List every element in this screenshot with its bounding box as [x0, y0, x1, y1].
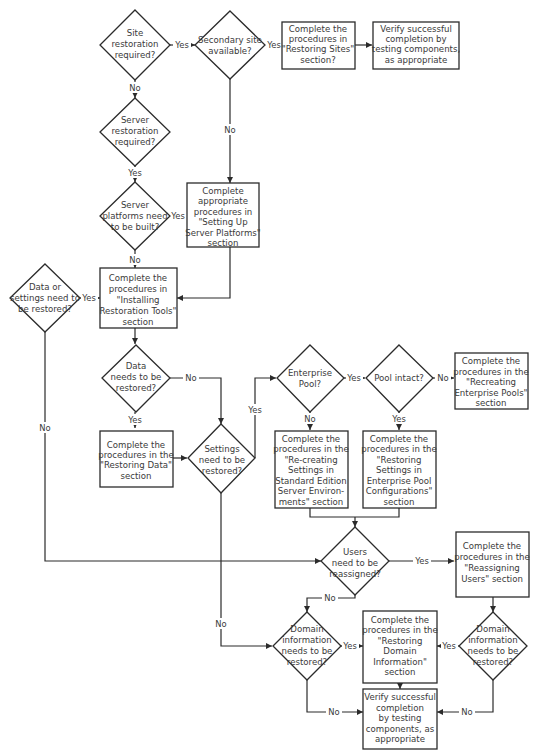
decision-domain-right: Domaininformationneeds to berestored?: [459, 612, 527, 680]
svg-text:No: No: [304, 414, 315, 424]
decision-pool-intact: Pool intact?: [366, 345, 433, 412]
edge-label-yes: Yes: [413, 556, 431, 567]
edge-label-yes: Yes: [81, 293, 98, 304]
edge-label-no: No: [435, 373, 451, 384]
edge-label-no: No: [322, 593, 338, 604]
edge-label-no: No: [326, 707, 342, 718]
svg-text:No: No: [324, 593, 335, 603]
svg-text:Settingsneed to berestored?: Settingsneed to berestored?: [199, 444, 245, 476]
edge-label-no: No: [37, 422, 53, 433]
svg-text:Yes: Yes: [174, 40, 189, 50]
svg-text:Yes: Yes: [346, 373, 361, 383]
edge-label-no: No: [302, 413, 318, 424]
svg-text:No: No: [185, 373, 196, 383]
process-restoring-sites: Complete theprocedures in"Restoring Site…: [282, 22, 355, 69]
edge-label-yes: Yes: [173, 39, 191, 50]
svg-text:Yes: Yes: [414, 556, 429, 566]
process-reassigning-users: Complete theprocedures in the"Reassignin…: [454, 532, 529, 597]
svg-text:Data orsettings need tobe rest: Data orsettings need tobe restored?: [10, 282, 80, 314]
edge-label-yes: Yes: [126, 414, 144, 425]
edge-label-yes: Yes: [390, 413, 408, 424]
process-recreating-standard: Complete theprocedures in the"Re-creatin…: [273, 431, 348, 508]
decision-data-or-settings: Data orsettings need tobe restored?: [10, 264, 80, 332]
svg-text:No: No: [224, 125, 235, 135]
edge-label-no: No: [222, 124, 238, 135]
decision-secondary-site: Secondary siteavailable?: [195, 11, 265, 79]
process-restoring-data: Complete theprocedures in the"Restoring …: [98, 431, 173, 487]
svg-text:Complete theprocedures in the": Complete theprocedures in the"Reassignin…: [454, 541, 529, 584]
edge-label-no: No: [127, 254, 143, 265]
edge-label-yes: Yes: [265, 39, 283, 50]
decision-users-reassigned: Usersneed to bereassigned?: [321, 527, 389, 595]
edge-label-no: No: [459, 707, 475, 718]
edge-label-no: No: [213, 618, 229, 629]
svg-text:Yes: Yes: [81, 293, 96, 303]
process-setting-up-platforms: Completeappropriateprocedures in"Setting…: [185, 183, 261, 248]
svg-text:No: No: [129, 255, 140, 265]
decision-site-restoration: Siterestorationrequired?: [100, 10, 170, 80]
process-restoring-pool-settings: Complete theprocedures in the"RestoringS…: [361, 431, 436, 508]
decision-settings-need-restore: Settingsneed to berestored?: [188, 424, 255, 493]
edge-label-yes: Yes: [346, 373, 363, 384]
svg-text:Yes: Yes: [266, 40, 281, 50]
process-verify-bottom: Verify successfulcompletionby testingcom…: [363, 689, 437, 749]
svg-text:No: No: [39, 423, 50, 433]
svg-text:No: No: [328, 707, 339, 717]
svg-text:No: No: [129, 83, 140, 93]
process-recreating-pools: Complete theprocedures in the"Recreating…: [453, 353, 528, 409]
svg-text:Yes: Yes: [391, 414, 406, 424]
decision-server-platforms-built: Serverplatforms needto be built?: [100, 182, 170, 250]
process-installing-tools: Complete theprocedures in"InstallingRest…: [99, 268, 177, 328]
edge-label-yes: Yes: [342, 641, 359, 652]
svg-text:Verify successfulcompletion by: Verify successfulcompletion bytesting co…: [372, 24, 460, 65]
svg-text:Yes: Yes: [127, 168, 142, 178]
edge-label-no: No: [127, 82, 143, 93]
svg-text:Yes: Yes: [441, 641, 456, 651]
process-restoring-domain: Complete theprocedures in the"RestoringD…: [362, 611, 437, 683]
edge-label-yes: Yes: [246, 404, 264, 415]
svg-text:Pool intact?: Pool intact?: [374, 373, 424, 383]
svg-text:Yes: Yes: [170, 211, 185, 221]
edge-label-yes: Yes: [126, 167, 144, 178]
process-verify-top: Verify successfulcompletion bytesting co…: [372, 22, 460, 69]
decision-enterprise-pool: EnterprisePool?: [277, 345, 344, 412]
decision-data-needs-restore: Dataneeds to berestored?: [102, 345, 170, 412]
svg-text:No: No: [461, 707, 472, 717]
svg-text:Yes: Yes: [247, 405, 262, 415]
svg-text:Yes: Yes: [127, 415, 142, 425]
svg-text:Yes: Yes: [342, 641, 357, 651]
edge-label-yes: Yes: [441, 641, 458, 652]
svg-text:No: No: [437, 373, 448, 383]
flowchart: Yes Yes No No Yes Yes No Yes No Yes Yes …: [0, 0, 537, 755]
edge-label-no: No: [183, 373, 199, 384]
svg-text:No: No: [215, 619, 226, 629]
decision-domain-left: Domaininformationneeds to berestored?: [273, 612, 341, 680]
decision-server-restoration: Serverrestorationrequired?: [100, 98, 170, 166]
edge-label-yes: Yes: [170, 211, 187, 222]
